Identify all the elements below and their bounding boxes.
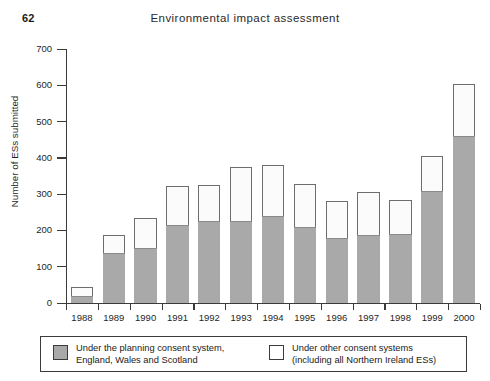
- y-axis-tick: [57, 266, 66, 267]
- bar-segment-planning-consent: [166, 225, 188, 303]
- y-axis-tick: [57, 303, 66, 304]
- legend-entry-planning-consent: Under the planning consent system,Englan…: [53, 343, 224, 366]
- bar-2000: [453, 84, 475, 303]
- x-axis-tick: [321, 304, 322, 310]
- x-axis-tick: [448, 304, 449, 310]
- bar-segment-planning-consent: [453, 136, 475, 303]
- x-axis-tick: [480, 304, 481, 310]
- x-axis-tick-label-1990: 1990: [129, 312, 163, 323]
- bar-1995: [294, 184, 316, 303]
- page-canvas: 62 Environmental impact assessment Numbe…: [0, 0, 490, 381]
- bar-1989: [103, 235, 125, 303]
- bar-segment-planning-consent: [357, 235, 379, 303]
- legend-label-line-2: England, Wales and Scotland: [76, 355, 224, 367]
- y-axis-tick-label: 100: [12, 262, 52, 272]
- x-axis-tick: [162, 304, 163, 310]
- legend-label: Under the planning consent system,Englan…: [76, 343, 224, 366]
- running-head-title: Environmental impact assessment: [0, 12, 490, 24]
- bar-segment-planning-consent: [294, 227, 316, 303]
- bar-1992: [198, 185, 220, 303]
- bar-1994: [262, 165, 284, 303]
- x-axis-tick-label-1998: 1998: [383, 312, 417, 323]
- legend-swatch-white: [269, 345, 284, 360]
- y-axis-tick-label: 200: [12, 225, 52, 235]
- bar-segment-planning-consent: [389, 234, 411, 303]
- y-axis-tick: [57, 230, 66, 231]
- x-axis-tick: [225, 304, 226, 310]
- bar-segment-planning-consent: [326, 238, 348, 303]
- bar-1998: [389, 200, 411, 303]
- x-axis-tick: [66, 304, 67, 310]
- y-axis-tick-label: 400: [12, 153, 52, 163]
- bar-1990: [134, 218, 156, 303]
- x-axis-tick-label-1995: 1995: [288, 312, 322, 323]
- x-axis-tick: [193, 304, 194, 310]
- x-axis-tick: [384, 304, 385, 310]
- x-axis-tick-label-1991: 1991: [160, 312, 194, 323]
- y-axis-tick: [57, 121, 66, 122]
- bar-segment-planning-consent: [421, 191, 443, 303]
- x-axis-tick: [98, 304, 99, 310]
- x-axis-tick: [257, 304, 258, 310]
- bar-1996: [326, 201, 348, 303]
- legend-entry-other-consent: Under other consent systems(including al…: [269, 343, 436, 366]
- y-axis-tick-label: 600: [12, 80, 52, 90]
- y-axis-tick-label: 0: [12, 298, 52, 308]
- x-axis-tick-label-1999: 1999: [415, 312, 449, 323]
- bar-1991: [166, 186, 188, 303]
- legend-label: Under other consent systems(including al…: [292, 343, 436, 366]
- chart-legend: Under the planning consent system,Englan…: [40, 336, 467, 372]
- y-axis-tick-label: 700: [12, 44, 52, 54]
- x-axis-line: [66, 303, 480, 304]
- x-axis-tick-label-1997: 1997: [352, 312, 386, 323]
- x-axis-tick-label-1996: 1996: [320, 312, 354, 323]
- legend-label-line-2: (including all Northern Ireland ESs): [292, 355, 436, 367]
- bar-segment-planning-consent: [134, 248, 156, 303]
- legend-label-line-1: Under the planning consent system,: [76, 343, 224, 355]
- bar-segment-planning-consent: [198, 221, 220, 303]
- bar-segment-planning-consent: [71, 296, 93, 303]
- y-axis-tick-label: 300: [12, 189, 52, 199]
- x-axis-tick-label-1993: 1993: [224, 312, 258, 323]
- x-axis-tick-label-1988: 1988: [65, 312, 99, 323]
- bar-segment-planning-consent: [230, 221, 252, 303]
- bar-segment-planning-consent: [103, 253, 125, 303]
- bar-1993: [230, 167, 252, 303]
- x-axis-tick-label-1994: 1994: [256, 312, 290, 323]
- bars-layer: [66, 49, 480, 303]
- bar-segment-planning-consent: [262, 216, 284, 303]
- legend-label-line-1: Under other consent systems: [292, 343, 436, 355]
- x-axis-tick-label-1989: 1989: [97, 312, 131, 323]
- bar-1988: [71, 287, 93, 303]
- x-axis-tick-label-2000: 2000: [447, 312, 481, 323]
- page-header: 62 Environmental impact assessment: [0, 12, 490, 32]
- y-axis-tick: [57, 85, 66, 86]
- bar-1999: [421, 156, 443, 303]
- y-axis-tick: [57, 194, 66, 195]
- x-axis-tick-label-1992: 1992: [192, 312, 226, 323]
- x-axis-tick: [289, 304, 290, 310]
- legend-swatch-gray: [53, 345, 68, 360]
- x-axis-tick: [416, 304, 417, 310]
- y-axis-tick-label: 500: [12, 117, 52, 127]
- y-axis-tick: [57, 49, 66, 50]
- x-axis-tick: [130, 304, 131, 310]
- stacked-bar-chart: Number of ESs submitted 0100200300400500…: [0, 38, 490, 323]
- x-axis-tick: [353, 304, 354, 310]
- bar-1997: [357, 192, 379, 303]
- y-axis-tick: [57, 157, 66, 158]
